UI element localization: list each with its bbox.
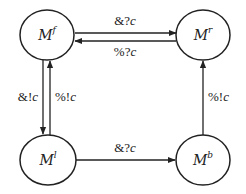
node-mf: Mf: [20, 10, 74, 60]
state-diagram: &?c %?c &!c %!c &?c %!c Mf Mr Ml Mb: [0, 0, 246, 194]
edge-label: &?c: [114, 140, 136, 155]
edge-mb-to-mr: %!c: [203, 61, 229, 135]
node-mb: Mb: [176, 135, 230, 185]
edge-label: &!c: [18, 89, 38, 104]
edge-ml-to-mb: &?c: [76, 140, 175, 160]
edge-label: %?c: [114, 44, 137, 59]
edge-mf-to-ml: &!c: [18, 60, 43, 134]
edge-mr-to-mf: %?c: [75, 41, 176, 59]
edge-label: &?c: [114, 13, 136, 28]
node-ml: Ml: [20, 135, 76, 185]
edge-mf-to-mr: &?c: [75, 13, 176, 33]
edge-ml-to-mf: %!c: [50, 61, 76, 135]
node-mr: Mr: [176, 10, 230, 60]
edge-label: %!c: [208, 89, 229, 104]
edge-label: %!c: [55, 89, 76, 104]
